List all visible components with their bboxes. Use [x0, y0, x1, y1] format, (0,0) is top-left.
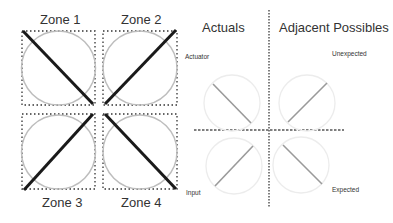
unexpected-quadrant-graphic [279, 75, 335, 131]
zone-4-graphic [103, 114, 177, 189]
expected-label: Expected [332, 186, 359, 193]
actuator-quadrant-graphic [204, 75, 260, 131]
zone-3-graphic [22, 114, 96, 190]
zone-1-label: Zone 1 [40, 12, 80, 27]
zone-4-label: Zone 4 [121, 195, 161, 210]
input-label: Input [186, 189, 200, 196]
adjacent-possibles-heading: Adjacent Possibles [279, 20, 389, 35]
zone-1-graphic [22, 31, 96, 105]
expected-quadrant-graphic [273, 137, 329, 193]
input-quadrant-graphic [206, 138, 262, 194]
zone-2-graphic [103, 30, 177, 105]
actuator-label: Actuator [185, 53, 209, 60]
actuals-heading: Actuals [202, 20, 245, 35]
zone-3-label: Zone 3 [42, 195, 82, 210]
zone-2-label: Zone 2 [121, 12, 161, 27]
unexpected-label: Unexpected [332, 50, 367, 57]
